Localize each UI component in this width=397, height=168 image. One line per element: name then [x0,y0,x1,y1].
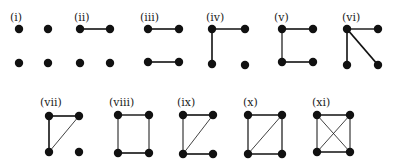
graph-vertex [278,150,286,158]
graph-vertex [44,59,52,67]
graph-label: (viii) [109,97,134,108]
graph-vertex [209,111,217,119]
graph-vertex [278,111,286,119]
graph-4 [208,25,249,69]
graph-vertex [208,60,216,68]
graph-vertex [75,148,83,156]
graph-label: (vii) [40,97,62,108]
graph-label: (ix) [177,97,195,108]
graph-vertex [145,149,153,157]
graph-vertex [244,111,252,119]
graph-vertex [313,148,321,156]
graph-vertex [76,59,84,67]
graph-7 [45,112,83,156]
graph-vertex [208,25,216,33]
graph-label: (v) [274,12,289,23]
graph-label: (iv) [206,12,224,23]
graph-vertex [175,58,183,66]
graph-vertex [241,25,249,33]
graph-vertex [145,111,153,119]
graph-label: (vi) [342,12,360,23]
graph-3 [144,25,183,66]
graph-diagram-canvas [0,0,397,168]
graph-vertex [209,150,217,158]
graph-label: (x) [243,97,258,108]
graph-vertex [76,25,84,33]
graph-vertex [346,148,354,156]
graph-vertex [106,25,114,33]
graph-vertex [374,25,382,33]
graph-edge [183,115,213,154]
graph-edge [248,115,282,154]
graph-label: (iii) [140,12,159,23]
graph-vertex [343,25,351,33]
graph-11 [313,111,354,156]
graph-vertex [75,112,83,120]
graph-vertex [144,58,152,66]
graph-label: (ii) [74,12,90,23]
graph-vertex [45,148,53,156]
graph-vertex [179,111,187,119]
graph-2 [76,25,114,67]
graph-vertex [374,61,382,69]
graph-vertex [175,25,183,33]
graph-vertex [313,111,321,119]
graph-label: (xi) [312,97,330,108]
graph-edge [347,29,378,65]
graph-vertex [309,58,317,66]
graph-vertex [343,61,351,69]
graph-vertex [346,111,354,119]
graph-vertex [278,58,286,66]
graph-8 [114,111,153,157]
graph-vertex [244,150,252,158]
graph-vertex [144,25,152,33]
graph-vertex [15,25,23,33]
graph-edge [49,116,79,152]
graph-vertex [15,59,23,67]
graph-vertex [45,112,53,120]
graph-vertex [114,111,122,119]
graph-9 [179,111,217,158]
graph-vertex [278,25,286,33]
graph-vertex [179,150,187,158]
graph-6 [343,25,382,69]
graph-5 [278,25,317,66]
graph-vertex [114,149,122,157]
graph-vertex [44,25,52,33]
graph-10 [244,111,286,158]
graph-vertex [241,61,249,69]
graph-label: (i) [10,12,22,23]
graph-vertex [309,25,317,33]
graph-vertex [106,59,114,67]
graph-1 [15,25,52,67]
